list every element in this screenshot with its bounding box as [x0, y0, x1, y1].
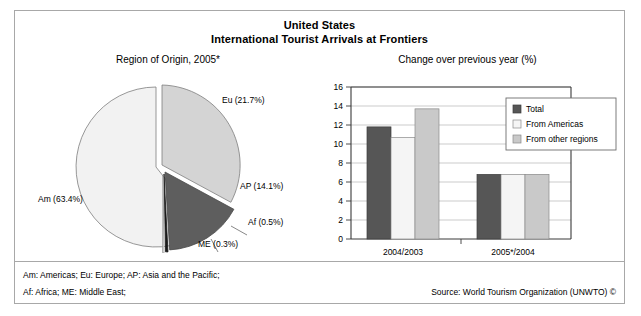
y-tick-label-14: 14	[334, 101, 344, 111]
y-tick-label-12: 12	[334, 120, 344, 130]
y-tick-label-10: 10	[334, 139, 344, 149]
bar-chart-graphic: 16 14 12 10 8 6 4 2 0 2	[321, 67, 626, 263]
y-tick-label-16: 16	[334, 82, 344, 92]
bar-2005-2004-from-other-regions	[525, 174, 549, 239]
bar-2004-2003-total	[367, 127, 391, 239]
legend-swatch-from-americas	[513, 120, 521, 128]
y-tick-label-8: 8	[338, 158, 343, 168]
pie-label-ap: AP (14.1%)	[240, 181, 283, 191]
y-tick-label-0: 0	[338, 234, 343, 244]
footer: Am: Americas; Eu: Europe; AP: Asia and t…	[15, 261, 624, 303]
y-tick-label-4: 4	[338, 196, 343, 206]
pie-label-af: Af (0.5%)	[248, 217, 283, 227]
pie-label-eu: Eu (21.7%)	[222, 95, 265, 105]
bar-2004-2003-from-other-regions	[415, 109, 439, 239]
x-category-label-2004-2003: 2004/2003	[383, 247, 423, 257]
pie-label-me: ME (0.3%)	[198, 239, 238, 249]
y-tick-label-6: 6	[338, 177, 343, 187]
figure-frame: United States International Tourist Arri…	[14, 10, 625, 304]
source-attribution: Source: World Tourism Organization (UNWT…	[431, 287, 616, 298]
legend-swatch-from-other-regions	[513, 135, 521, 143]
pie-leader-af	[231, 226, 247, 235]
page-subtitle: International Tourist Arrivals at Fronti…	[15, 32, 624, 47]
pie-chart-panel: Region of Origin, 2005* Eu (21.7%) AP (1…	[15, 53, 321, 253]
y-tick-marks	[346, 87, 351, 239]
legend-label-from-americas: From Americas	[526, 119, 583, 129]
legend-label-total: Total	[526, 104, 544, 114]
bar-chart-legend: Total From Americas From other regions	[506, 98, 616, 150]
bar-2004-2003-from-americas	[391, 137, 415, 239]
page-title: United States	[15, 18, 624, 32]
bar-2005-2004-total	[477, 174, 501, 239]
bar-chart-panel: Change over previous year (%)	[321, 53, 626, 253]
footnote-abbreviations-line-1: Am: Americas; Eu: Europe; AP: Asia and t…	[23, 270, 220, 281]
x-category-label-2005-2004: 2005*/2004	[491, 247, 535, 257]
legend-label-from-other-regions: From other regions	[526, 134, 598, 144]
footnote-abbreviations-line-2: Af: Africa; ME: Middle East;	[23, 287, 126, 298]
bar-chart-heading: Change over previous year (%)	[315, 53, 620, 66]
figure-title-block: United States International Tourist Arri…	[15, 18, 624, 47]
pie-chart-heading: Region of Origin, 2005*	[15, 53, 321, 66]
bar-2005-2004-from-americas	[501, 174, 525, 239]
y-tick-label-2: 2	[338, 215, 343, 225]
legend-swatch-total	[513, 105, 521, 113]
pie-label-am: Am (63.4%)	[38, 194, 83, 204]
